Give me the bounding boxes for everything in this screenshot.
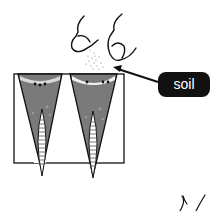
- seedling-soil-diagram: [0, 0, 222, 211]
- hand-fingers-icon: [72, 14, 137, 60]
- falling-soil-particles: [85, 49, 103, 69]
- partial-fingers-icon: [180, 195, 205, 211]
- arrow-head-icon: [113, 65, 122, 72]
- soil-label: soil: [158, 72, 210, 97]
